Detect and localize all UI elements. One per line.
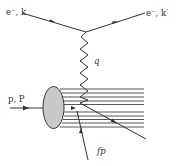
proton-line [10, 106, 43, 111]
photon-wiggle [80, 32, 88, 103]
dis-diagram: e⁻, k e⁻, k′ q p, P fp [0, 0, 176, 166]
incoming-electron-label: e⁻, k [6, 7, 27, 17]
proton-label: p, P [8, 94, 25, 104]
struck-quark-line [80, 103, 146, 139]
photon-label: q [94, 56, 100, 66]
proton-blob [43, 87, 64, 129]
outgoing-electron-line [86, 13, 145, 32]
arrow-icon [49, 19, 55, 22]
outgoing-electron-label: e⁻, k′ [146, 8, 168, 18]
arrow-icon [23, 106, 29, 111]
parton-arrow [77, 111, 88, 160]
incoming-electron-line [22, 13, 86, 32]
parton-label: fp [96, 146, 106, 156]
quark-arrow-icon [71, 106, 76, 110]
